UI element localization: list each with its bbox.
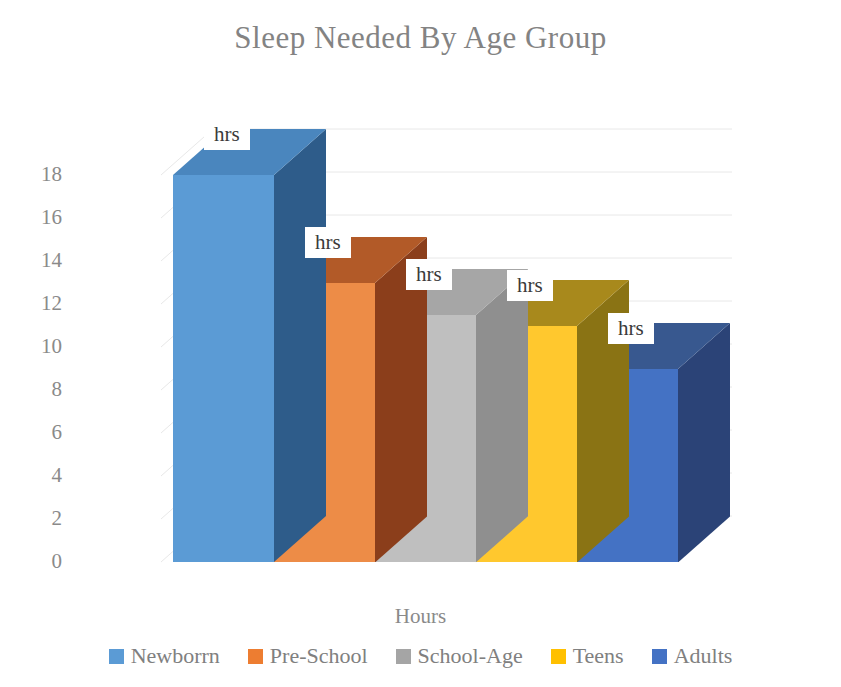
bar-front-face	[173, 175, 274, 562]
data-label-newborrn: hrs	[204, 119, 250, 150]
legend-item-teens[interactable]: Teens	[551, 643, 624, 669]
bar-newborrn[interactable]	[173, 129, 326, 562]
legend-swatch-icon	[248, 649, 263, 664]
legend-swatch-icon	[396, 649, 411, 664]
data-label-school-age: hrs	[406, 259, 452, 290]
data-label-teens: hrs	[507, 270, 553, 301]
legend-label: Newborrn	[131, 643, 220, 669]
data-label-pre-school: hrs	[305, 227, 351, 258]
legend-item-adults[interactable]: Adults	[652, 643, 733, 669]
bar-side-face	[274, 129, 326, 562]
legend-label: Pre-School	[270, 643, 368, 669]
legend-swatch-icon	[551, 649, 566, 664]
chart-legend: NewborrnPre-SchoolSchool-AgeTeensAdults	[0, 643, 841, 669]
legend-swatch-icon	[109, 649, 124, 664]
chart-container: Sleep Needed By Age Group 18161412108642…	[0, 0, 841, 687]
x-axis-title: Hours	[0, 604, 841, 629]
legend-item-pre-school[interactable]: Pre-School	[248, 643, 368, 669]
bar-shape	[173, 129, 326, 562]
bar-side-face	[476, 269, 528, 562]
legend-label: Adults	[674, 643, 733, 669]
bar-group	[0, 0, 841, 620]
legend-label: School-Age	[418, 643, 523, 669]
data-label-adults: hrs	[608, 313, 654, 344]
legend-label: Teens	[573, 643, 624, 669]
legend-item-school-age[interactable]: School-Age	[396, 643, 523, 669]
legend-swatch-icon	[652, 649, 667, 664]
legend-item-newborrn[interactable]: Newborrn	[109, 643, 220, 669]
plot-area: 181614121086420 hrshrshrshrshrs	[0, 0, 841, 620]
